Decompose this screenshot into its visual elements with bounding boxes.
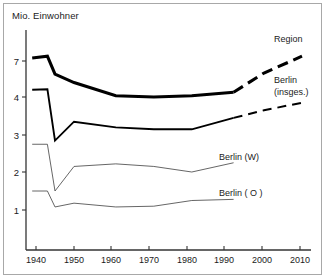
series-label-berlin-total-line2: (insges.) [274,87,309,97]
y-axis-ticks: 7 4 3 2 1 [14,56,26,216]
figure-frame: Mio. Einwohner 7 4 3 2 1 [0,0,326,279]
x-tick-label-1980: 1980 [177,255,197,265]
x-tick-label-1950: 1950 [64,255,84,265]
series-label-berlin-total-line1: Berlin [274,75,297,85]
axes [26,30,311,250]
series-region-solid [32,56,233,97]
series-label-berlin-west: Berlin (W) [219,152,259,162]
y-tick-label-4: 4 [14,92,19,103]
y-tick-label-2: 2 [14,167,19,178]
series-berlin-total-forecast [234,103,302,118]
x-tick-label-1970: 1970 [139,255,159,265]
series-label-berlin-east: Berlin ( O ) [219,188,263,198]
series-label-region: Region [274,34,303,44]
data-series [32,56,302,207]
x-tick-label-2000: 2000 [252,255,272,265]
population-line-chart: 7 4 3 2 1 1940 1950 1960 1970 1980 1990 … [0,0,326,279]
x-axis-ticks: 1940 1950 1960 1970 1980 1990 2000 2010 [26,246,310,265]
x-tick-label-1960: 1960 [101,255,121,265]
y-tick-label-1: 1 [14,205,19,216]
x-tick-label-2010: 2010 [290,255,310,265]
x-tick-label-1990: 1990 [214,255,234,265]
series-berlin-west [32,144,233,191]
x-tick-label-1940: 1940 [26,255,46,265]
series-berlin-east [32,191,233,207]
y-tick-label-3: 3 [14,130,19,141]
y-tick-label-7: 7 [14,56,19,67]
